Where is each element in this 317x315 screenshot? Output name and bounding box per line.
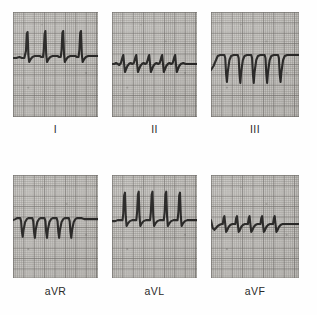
ecg-cell-lead-ii: II (112, 12, 197, 134)
ecg-figure: I II III (0, 0, 317, 315)
ecg-label-lead-avf: aVF (211, 285, 299, 297)
ecg-trace-lead-ii (112, 12, 197, 117)
ecg-waveform-lead-avr (13, 218, 98, 238)
ecg-panel-lead-ii (112, 12, 197, 117)
ecg-panel-lead-iii (211, 12, 299, 117)
ecg-waveform-lead-avl (112, 192, 197, 226)
ecg-cell-lead-avl: aVL (112, 175, 197, 300)
ecg-panel-lead-avl (112, 175, 197, 278)
ecg-panel-lead-i (13, 12, 98, 117)
ecg-trace-lead-iii (211, 12, 299, 117)
ecg-panel-lead-avf (211, 175, 299, 278)
ecg-label-lead-iii: III (211, 123, 299, 135)
ecg-waveform-lead-ii (112, 55, 197, 72)
ecg-label-lead-avr: aVR (13, 285, 98, 297)
ecg-cell-lead-i: I (13, 12, 98, 134)
ecg-waveform-lead-i (13, 31, 98, 62)
ecg-label-lead-ii: II (112, 123, 197, 135)
ecg-trace-lead-i (13, 12, 98, 117)
ecg-trace-lead-avr (13, 175, 98, 278)
ecg-cell-lead-avf: aVF (211, 175, 299, 300)
ecg-panel-lead-avr (13, 175, 98, 278)
ecg-cell-lead-avr: aVR (13, 175, 98, 300)
ecg-cell-lead-iii: III (211, 12, 299, 134)
ecg-label-lead-i: I (13, 123, 98, 135)
ecg-trace-lead-avf (211, 175, 299, 278)
ecg-waveform-lead-iii (211, 55, 299, 83)
ecg-waveform-lead-avf (211, 216, 299, 232)
ecg-trace-lead-avl (112, 175, 197, 278)
ecg-label-lead-avl: aVL (112, 285, 197, 297)
